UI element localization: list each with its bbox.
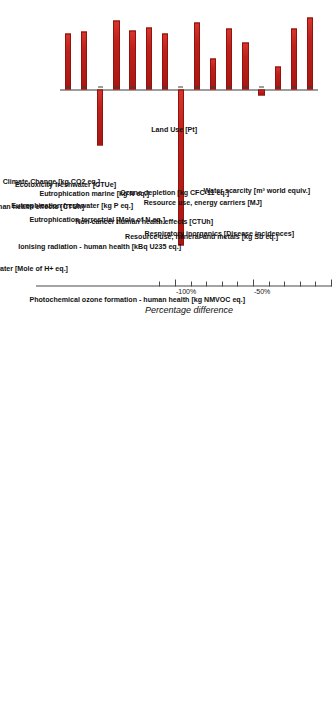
category-label: Acidification terrestrial and freshwater… (0, 265, 68, 273)
category-tick (259, 86, 264, 87)
bar (65, 33, 71, 89)
bar (275, 66, 281, 89)
category-tick (162, 86, 167, 87)
category-label: Cancer human health effects [CTUh] (0, 203, 84, 211)
axis-tick-label: -50% (254, 288, 270, 295)
category-label: Climate Change [kg CO2 eq.] (3, 177, 100, 185)
axis-tick (237, 281, 238, 286)
category-label: Eutrophication marine [kg N eq.] (39, 190, 149, 198)
rotated-chart-stage: 50%0%-50%-100% Percentage difference Wat… (0, 0, 332, 709)
axis-tick (284, 281, 285, 286)
category-tick (307, 86, 312, 87)
axis-tick (253, 279, 254, 286)
axis-tick (159, 281, 160, 286)
value-axis-title: Percentage difference (145, 304, 233, 314)
axis-tick (191, 281, 192, 286)
bar (226, 28, 232, 89)
bar (162, 33, 168, 89)
category-tick (291, 86, 296, 87)
category-label: Resource use, mineral and metals [kg Sb … (125, 233, 278, 241)
axis-tick-label: -100% (176, 288, 196, 295)
category-tick (227, 86, 232, 87)
axis-tick (315, 281, 316, 286)
category-tick (66, 86, 71, 87)
axis-tick (300, 281, 301, 286)
category-tick (82, 86, 87, 87)
axis-tick (175, 279, 176, 286)
bar (307, 17, 313, 89)
value-axis-line (36, 285, 332, 286)
category-tick (275, 86, 280, 87)
bar (291, 28, 297, 89)
bar (242, 42, 248, 89)
bar (146, 27, 152, 89)
category-label: Eutrophication terrestrial [Mole of N eq… (29, 216, 165, 224)
axis-tick (269, 281, 270, 286)
axis-tick (222, 281, 223, 286)
category-tick (195, 86, 200, 87)
category-tick (211, 86, 216, 87)
bar (81, 31, 87, 89)
category-label: Ionising radiation - human health [kBq U… (18, 243, 181, 251)
bar (194, 22, 200, 89)
bar (129, 30, 135, 89)
category-tick (243, 86, 248, 87)
category-tick (146, 86, 151, 87)
chart-page: 50%0%-50%-100% Percentage difference Wat… (0, 0, 332, 709)
category-label: Photochemical ozone formation - human he… (30, 296, 246, 304)
category-tick (98, 86, 103, 87)
bar (210, 58, 216, 89)
category-label: Resource use, energy carriers [MJ] (143, 198, 261, 206)
category-tick (178, 86, 183, 87)
category-tick (114, 86, 119, 87)
bar (258, 89, 264, 95)
category-tick (130, 86, 135, 87)
bar (113, 20, 119, 89)
category-label: Land Use [Pt] (151, 126, 197, 134)
bar (97, 89, 103, 145)
axis-tick (206, 281, 207, 286)
